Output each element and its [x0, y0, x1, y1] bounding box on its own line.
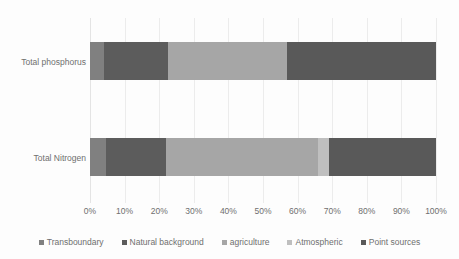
bar-segment-total-phosphorus-point-sources: [287, 42, 436, 80]
x-axis-tick-label-70pct: 70%: [324, 205, 341, 217]
legend-swatch-atmospheric: [287, 240, 292, 245]
legend-swatch-point-sources: [361, 240, 366, 245]
bar-segment-total-phosphorus-transboundary: [90, 42, 104, 80]
bar-segment-total-nitrogen-natural-background: [106, 138, 167, 176]
bar-segment-total-phosphorus-natural-background: [104, 42, 168, 80]
x-axis-tick-label-0pct: 0%: [84, 205, 96, 217]
plot-area: [90, 18, 436, 203]
x-axis-tick-label-90pct: 90%: [393, 205, 410, 217]
legend-label-transboundary: Transboundary: [47, 237, 104, 247]
legend-label-point-sources: Point sources: [369, 237, 421, 247]
x-axis-tick-label-60pct: 60%: [289, 205, 306, 217]
bar-segment-total-nitrogen-atmospheric: [318, 138, 328, 176]
x-axis-tick-label-40pct: 40%: [220, 205, 237, 217]
bar-segment-total-phosphorus-agriculture: [168, 42, 287, 80]
x-axis-tick-label-10pct: 10%: [116, 205, 133, 217]
x-axis-labels: 0%10%20%30%40%50%60%70%80%90%100%: [90, 205, 436, 219]
x-axis-tick-label-30pct: 30%: [185, 205, 202, 217]
legend-item-point-sources[interactable]: Point sources: [361, 237, 421, 247]
y-axis-label-total-nitrogen: Total Nitrogen: [2, 153, 86, 163]
bar-row-total-nitrogen: [90, 138, 436, 176]
legend-swatch-agriculture: [222, 240, 227, 245]
legend-label-natural-background: Natural background: [130, 237, 204, 247]
chart-container: Total phosphorus Total Nitrogen 0%10%20%…: [0, 0, 459, 259]
bar-segment-total-nitrogen-transboundary: [90, 138, 106, 176]
legend-item-natural-background[interactable]: Natural background: [122, 237, 204, 247]
x-axis-tick-label-80pct: 80%: [358, 205, 375, 217]
legend-swatch-natural-background: [122, 240, 127, 245]
y-axis-label-total-phosphorus: Total phosphorus: [2, 57, 86, 67]
legend-item-atmospheric[interactable]: Atmospheric: [287, 237, 342, 247]
legend-label-atmospheric: Atmospheric: [295, 237, 342, 247]
legend-item-agriculture[interactable]: agriculture: [222, 237, 270, 247]
bar-segment-total-nitrogen-point-sources: [329, 138, 436, 176]
legend-swatch-transboundary: [39, 240, 44, 245]
x-axis-tick-label-50pct: 50%: [254, 205, 271, 217]
x-axis-tick-label-20pct: 20%: [151, 205, 168, 217]
x-axis-tick-label-100pct: 100%: [425, 205, 447, 217]
bar-segment-total-nitrogen-agriculture: [166, 138, 318, 176]
legend-label-agriculture: agriculture: [230, 237, 270, 247]
y-axis-labels: Total phosphorus Total Nitrogen: [0, 0, 86, 259]
chart-legend: TransboundaryNatural backgroundagricultu…: [0, 234, 459, 250]
legend-item-transboundary[interactable]: Transboundary: [39, 237, 104, 247]
bar-row-total-phosphorus: [90, 42, 436, 80]
gridline-100pct: [436, 18, 437, 203]
